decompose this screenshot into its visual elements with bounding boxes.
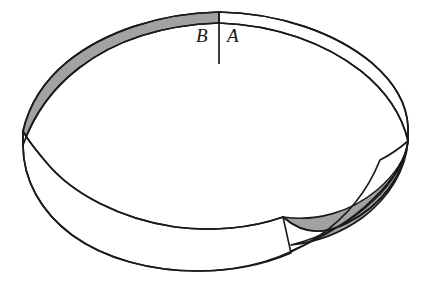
region-label-a: A [227,26,239,45]
upper-right-unshaded-band [219,12,408,141]
outer-edge-top-right [219,12,408,127]
mobius-band-figure: B A [0,0,430,284]
outer-edge-top-left [23,12,219,131]
mobius-band-illustration [0,0,430,284]
lower-right-shaded-band [283,141,408,245]
lower-left-unshaded-band [23,131,291,271]
shaded-crescent-outer-edge [291,141,408,251]
region-label-b: B [196,26,208,45]
